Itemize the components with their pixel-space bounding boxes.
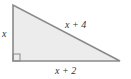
label-hypotenuse: x + 4 <box>65 20 86 30</box>
label-bottom-side: x + 2 <box>55 66 76 76</box>
right-triangle <box>13 5 120 61</box>
label-left-side: x <box>2 29 6 39</box>
